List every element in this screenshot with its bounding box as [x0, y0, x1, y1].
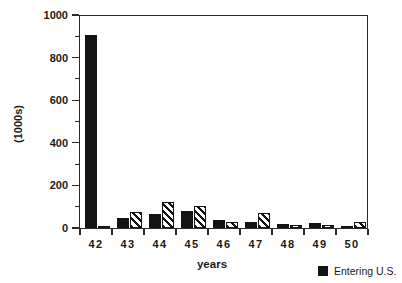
bar — [277, 224, 290, 228]
y-axis-tick-label: 0 — [62, 222, 68, 234]
bar — [226, 222, 239, 228]
bar — [85, 35, 98, 228]
bar — [117, 218, 130, 228]
legend: Entering U.S. — [318, 265, 396, 277]
y-axis-tick — [72, 185, 79, 186]
x-axis-title-text: years — [175, 258, 227, 270]
x-axis-tick-label: 42 — [88, 238, 103, 250]
bar — [245, 222, 258, 228]
bar — [354, 222, 367, 228]
x-axis-tick-label: 43 — [120, 238, 135, 250]
bar — [162, 202, 175, 228]
legend-swatch-entering-us — [318, 266, 328, 276]
bar — [213, 220, 226, 228]
bar — [309, 223, 322, 228]
x-axis-tick — [303, 229, 304, 235]
bar — [258, 213, 271, 228]
y-axis-tick — [72, 227, 79, 228]
bar — [130, 212, 143, 228]
x-axis-tick-label: 44 — [152, 238, 167, 250]
bar — [181, 211, 194, 228]
y-axis-tick-label: 600 — [50, 94, 68, 106]
y-axis-minor-tick — [75, 206, 80, 207]
bar — [98, 226, 111, 228]
x-axis-tick-label: 45 — [184, 238, 199, 250]
y-axis-minor-tick — [75, 78, 80, 79]
x-axis-tick — [79, 229, 80, 235]
x-axis-tick-label: 49 — [312, 238, 327, 250]
x-axis-tick-label: 47 — [248, 238, 263, 250]
x-axis-tick — [143, 229, 144, 235]
y-axis-minor-tick — [75, 36, 80, 37]
plot-area — [80, 15, 368, 228]
y-axis-title: (1000s) — [12, 84, 24, 164]
bar — [322, 225, 335, 228]
x-axis-tick — [239, 229, 240, 235]
x-axis-tick — [335, 229, 336, 235]
x-axis-tick — [207, 229, 208, 235]
x-axis-tick — [367, 229, 368, 235]
y-axis-tick-label: 800 — [50, 52, 68, 64]
y-axis-tick-label: 200 — [50, 179, 68, 191]
bar — [149, 214, 162, 228]
y-axis-minor-tick — [75, 121, 80, 122]
y-axis-tick-label: 1000 — [44, 9, 68, 21]
x-axis-tick-label: 46 — [216, 238, 231, 250]
bar — [341, 226, 354, 228]
x-axis-tick-label: 48 — [280, 238, 295, 250]
x-axis-tick — [175, 229, 176, 235]
y-axis-tick — [72, 14, 79, 15]
x-axis-tick — [271, 229, 272, 235]
bar — [194, 206, 207, 228]
bar-chart-figure: (1000s) 02004006008001000 42434445464748… — [0, 0, 402, 283]
y-axis-minor-tick — [75, 164, 80, 165]
y-axis-tick — [72, 142, 79, 143]
bar — [290, 225, 303, 228]
y-axis-tick-label: 400 — [50, 137, 68, 149]
y-axis-tick — [72, 57, 79, 58]
x-axis-tick-label: 50 — [344, 238, 359, 250]
y-axis-tick — [72, 100, 79, 101]
legend-label-entering-us: Entering U.S. — [334, 265, 396, 277]
x-axis-tick — [111, 229, 112, 235]
